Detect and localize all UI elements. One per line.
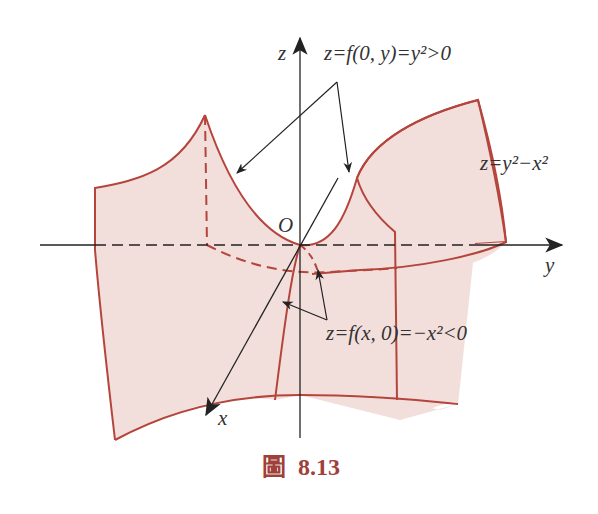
figure-caption-number: 8.13 [298, 454, 340, 480]
figure-caption-prefix: 圖 [262, 454, 286, 480]
saddle-diagram: z O y x z=f(0, y)=y²>0 z=y²−x² z=f(x, 0)… [0, 0, 598, 514]
figure-saddle-surface: z O y x z=f(0, y)=y²>0 z=y²−x² z=f(x, 0)… [0, 0, 598, 514]
pointer-arrow-up-right [337, 82, 349, 172]
y-axis-label: y [543, 253, 555, 277]
origin-label: O [278, 213, 293, 237]
x-axis-label: x [217, 406, 228, 430]
label-parabola-down: z=f(x, 0)=−x²<0 [325, 321, 468, 345]
label-parabola-up: z=f(0, y)=y²>0 [323, 41, 451, 65]
label-surface-equation: z=y²−x² [479, 151, 548, 175]
pointer-arrow-up-left [237, 82, 337, 173]
z-axis-label: z [277, 41, 286, 65]
